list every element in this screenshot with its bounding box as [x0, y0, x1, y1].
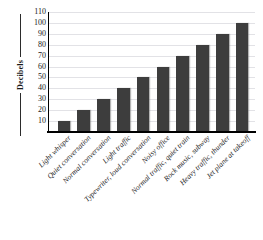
- plot-area: [48, 12, 255, 132]
- bar: [77, 110, 90, 132]
- decibel-bar-chart: Decibels 102030405060708090100110 Light …: [0, 0, 263, 240]
- bar-slot: [232, 12, 252, 132]
- y-axis-tick-label: 70: [38, 52, 46, 60]
- y-axis-tick-label: 50: [38, 73, 46, 81]
- y-axis-tick-label: 80: [38, 41, 46, 49]
- y-axis-tick-label: 30: [38, 95, 46, 103]
- bar-slot: [153, 12, 173, 132]
- y-axis-title: Decibels: [16, 57, 25, 93]
- y-axis-tick-label: 60: [38, 63, 46, 71]
- y-axis-tick-label: 40: [38, 84, 46, 92]
- bar-slot: [54, 12, 74, 132]
- y-axis-tick-label: 110: [34, 8, 46, 16]
- bar: [137, 77, 150, 132]
- x-axis-category-labels: Light whisperQuiet conversationNormal co…: [48, 134, 255, 238]
- y-axis-tick-labels: 102030405060708090100110: [26, 12, 46, 132]
- bar: [196, 45, 209, 132]
- bar-series: [49, 12, 255, 132]
- y-axis-title-rule-bottom: [20, 93, 21, 136]
- y-axis-tick-label: 20: [38, 106, 46, 114]
- y-axis-tick-label: 10: [38, 117, 46, 125]
- bar-slot: [193, 12, 213, 132]
- bar: [216, 34, 229, 132]
- y-axis-tick-label: 90: [38, 30, 46, 38]
- bar: [97, 99, 110, 132]
- bar-slot: [113, 12, 133, 132]
- bar: [176, 56, 189, 132]
- bar-slot: [173, 12, 193, 132]
- y-axis-title-rule-top: [20, 14, 21, 57]
- bar-slot: [212, 12, 232, 132]
- bar-slot: [133, 12, 153, 132]
- bar: [236, 23, 249, 132]
- bar: [157, 67, 170, 132]
- bar-slot: [94, 12, 114, 132]
- bar-slot: [74, 12, 94, 132]
- y-axis-tick-label: 100: [34, 19, 46, 27]
- bar: [117, 88, 130, 132]
